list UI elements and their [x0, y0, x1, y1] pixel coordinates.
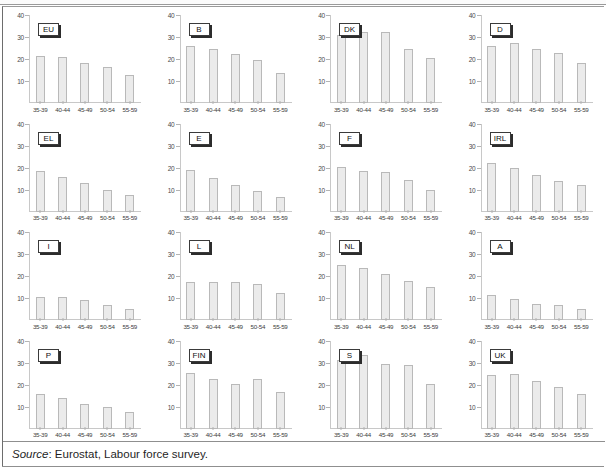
- bar: [554, 181, 563, 212]
- bar: [577, 63, 586, 103]
- x-tick-label: 35-39: [180, 323, 202, 330]
- x-tick-label: 45-49: [74, 106, 96, 113]
- y-tick-label: 40: [318, 120, 325, 127]
- x-tick-label: 50-54: [247, 106, 269, 113]
- y-tick-label: 10: [168, 403, 175, 410]
- bar-slot: [548, 341, 570, 429]
- country-badge: UK: [490, 349, 511, 362]
- x-tick: [363, 210, 364, 213]
- country-badge: E: [189, 132, 210, 145]
- y-tick-label: 40: [469, 337, 476, 344]
- bar-slot: [397, 232, 419, 320]
- x-tick-label: 45-49: [375, 323, 397, 330]
- bar: [231, 282, 240, 320]
- bar: [359, 171, 368, 211]
- x-tick: [581, 210, 582, 213]
- y-tick-label: 20: [168, 381, 175, 388]
- y-tick-label: 30: [469, 34, 476, 41]
- bar: [510, 374, 519, 428]
- bar: [186, 282, 195, 320]
- x-tick: [190, 210, 191, 213]
- y-tick-label: 30: [168, 34, 175, 41]
- chart-panel-e: 1020304035-3940-4445-4950-5455-59E: [154, 116, 305, 225]
- bar-slot: [247, 341, 269, 429]
- x-tick-label: 40-44: [51, 323, 73, 330]
- x-tick: [558, 427, 559, 430]
- bar-slot: [525, 15, 547, 103]
- bar: [36, 297, 45, 320]
- bar: [426, 287, 435, 320]
- x-tick: [491, 101, 492, 104]
- x-tick: [257, 210, 258, 213]
- country-badge-wrapper: D: [490, 18, 511, 36]
- bar: [276, 392, 285, 429]
- x-tick-label: 35-39: [180, 106, 202, 113]
- bar: [186, 373, 195, 429]
- x-axis-labels: 35-3940-4445-4950-5455-59: [330, 214, 442, 221]
- x-tick: [235, 318, 236, 321]
- country-badge-wrapper: NL: [339, 235, 360, 253]
- bar: [80, 183, 89, 211]
- y-tick-label: 10: [469, 186, 476, 193]
- x-tick: [341, 318, 342, 321]
- bar-slot: [119, 232, 141, 320]
- x-tick-label: 35-39: [29, 431, 51, 438]
- x-axis-labels: 35-3940-4445-4950-5455-59: [481, 214, 593, 221]
- bar-slot: [247, 15, 269, 103]
- x-tick-label: 45-49: [74, 431, 96, 438]
- x-tick-label: 50-54: [548, 214, 570, 221]
- x-tick-label: 35-39: [29, 106, 51, 113]
- chart-panel-s: 1020304035-3940-4445-4950-5455-59S: [304, 333, 455, 442]
- country-badge-wrapper: IRL: [490, 127, 511, 145]
- x-tick: [213, 210, 214, 213]
- x-tick-label: 50-54: [247, 214, 269, 221]
- bar: [231, 54, 240, 103]
- y-tick-label: 30: [168, 142, 175, 149]
- bar-slot: [269, 232, 291, 320]
- x-tick-label: 40-44: [503, 323, 525, 330]
- bar-slot: [420, 341, 442, 429]
- chart-panel-uk: 1020304035-3940-4445-4950-5455-59UK: [455, 333, 606, 442]
- country-badge-wrapper: EL: [38, 127, 59, 145]
- y-tick-label: 10: [318, 403, 325, 410]
- bar: [186, 170, 195, 211]
- x-tick: [514, 427, 515, 430]
- x-tick: [235, 427, 236, 430]
- bar: [36, 56, 45, 103]
- country-badge: A: [490, 240, 511, 253]
- x-tick: [107, 210, 108, 213]
- bar: [487, 375, 496, 428]
- x-tick: [107, 318, 108, 321]
- y-tick-label: 30: [469, 251, 476, 258]
- y-tick-label: 40: [17, 229, 24, 236]
- bar: [426, 58, 435, 103]
- y-tick-label: 40: [469, 229, 476, 236]
- x-tick-label: 55-59: [119, 106, 141, 113]
- x-tick: [62, 210, 63, 213]
- bar-slot: [224, 124, 246, 212]
- x-axis-labels: 35-3940-4445-4950-5455-59: [180, 431, 292, 438]
- y-tick-label: 30: [17, 359, 24, 366]
- bar: [253, 284, 262, 320]
- country-badge-wrapper: UK: [490, 344, 511, 362]
- bar: [125, 75, 134, 103]
- x-tick-label: 40-44: [202, 214, 224, 221]
- x-tick: [581, 427, 582, 430]
- country-badge: IRL: [490, 132, 511, 145]
- x-tick-label: 40-44: [51, 214, 73, 221]
- x-tick: [558, 101, 559, 104]
- x-tick: [363, 101, 364, 104]
- chart-panel-el: 1020304035-3940-4445-4950-5455-59EL: [3, 116, 154, 225]
- country-badge: B: [189, 23, 210, 36]
- bar: [209, 178, 218, 211]
- y-tick-label: 20: [168, 164, 175, 171]
- x-tick-label: 35-39: [330, 431, 352, 438]
- x-tick-label: 35-39: [481, 431, 503, 438]
- x-tick: [129, 210, 130, 213]
- x-tick-label: 35-39: [180, 214, 202, 221]
- bar-slot: [74, 124, 96, 212]
- x-axis-labels: 35-3940-4445-4950-5455-59: [180, 106, 292, 113]
- country-badge: F: [339, 132, 360, 145]
- x-tick: [40, 427, 41, 430]
- x-tick: [341, 427, 342, 430]
